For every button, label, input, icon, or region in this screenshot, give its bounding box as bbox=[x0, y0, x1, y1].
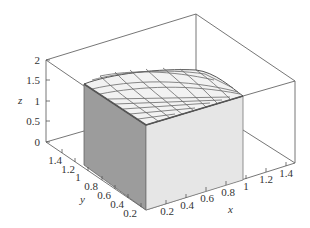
z-tick-label: 0 bbox=[35, 136, 41, 148]
z-tick-label: 1.5 bbox=[26, 74, 40, 86]
x-tick-label: 0.6 bbox=[200, 192, 214, 204]
z-tick-label: 2 bbox=[35, 54, 41, 66]
y-tick-label: 1 bbox=[75, 171, 81, 183]
x-axis-label: x bbox=[227, 203, 233, 215]
x-tick-label: 1.2 bbox=[259, 173, 273, 185]
z-axis: 2 1.5 1 0.5 0 z bbox=[17, 54, 50, 148]
surface-plot: 2 1.5 1 0.5 0 z 1.4 1.2 1 0.8 0.6 0.4 0.… bbox=[0, 0, 310, 228]
y-axis-label: y bbox=[79, 193, 85, 205]
x-tick-label: 1.4 bbox=[279, 167, 293, 179]
y-tick-label: 1.2 bbox=[61, 163, 75, 175]
z-axis-label: z bbox=[17, 94, 23, 106]
z-tick-label: 0.5 bbox=[26, 115, 40, 127]
x-tick-label: 1 bbox=[243, 180, 249, 192]
x-tick-label: 0.8 bbox=[221, 186, 235, 198]
x-tick-label: 0.2 bbox=[160, 205, 174, 217]
plot-canvas: 2 1.5 1 0.5 0 z 1.4 1.2 1 0.8 0.6 0.4 0.… bbox=[0, 0, 310, 228]
x-tick-label: 0.4 bbox=[180, 199, 194, 211]
y-tick-label: 0.2 bbox=[123, 207, 137, 219]
z-tick-label: 1 bbox=[35, 95, 41, 107]
